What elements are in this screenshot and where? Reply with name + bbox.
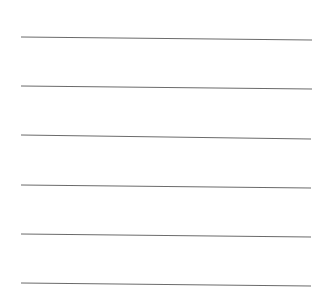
ruled-line-4 [21,185,311,188]
ruled-line-2 [21,86,312,89]
ruled-line-5 [21,234,311,237]
ruled-lines-canvas [0,0,331,308]
ruled-line-3 [21,135,311,139]
ruled-line-1 [21,37,312,40]
ruled-line-6 [21,283,311,286]
